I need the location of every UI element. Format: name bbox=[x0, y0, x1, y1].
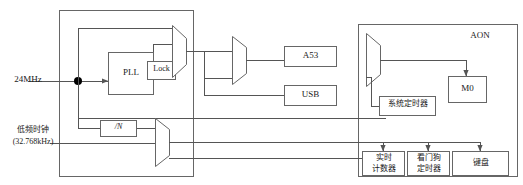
core-clock-mux bbox=[233, 37, 247, 85]
usb-block bbox=[285, 86, 337, 106]
clock-tree-diagram: 24MHz 低频时钟 (32.768kHz) PLL Lock /N A53 U… bbox=[0, 0, 523, 185]
diagram-canvas bbox=[0, 0, 523, 185]
watchdog-block bbox=[408, 152, 450, 176]
m0-block bbox=[449, 77, 487, 103]
aon-clock-mux bbox=[367, 34, 381, 87]
rtc-block bbox=[363, 152, 405, 176]
lowfreq-mux bbox=[156, 119, 170, 167]
keypad-block bbox=[453, 152, 509, 176]
divider-block bbox=[101, 121, 137, 137]
a53-block bbox=[285, 47, 337, 67]
pll-block bbox=[109, 53, 154, 95]
wire-pll-out-up bbox=[153, 44, 172, 52]
lock-block bbox=[148, 62, 176, 80]
pll-output-mux bbox=[173, 26, 187, 78]
system-timer-block bbox=[380, 97, 436, 116]
